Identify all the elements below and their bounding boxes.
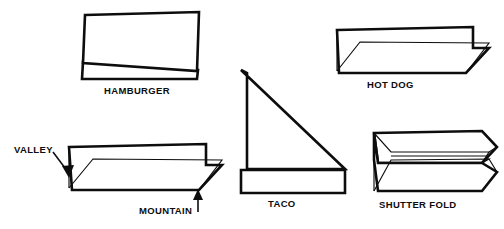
- caption-hamburger: HAMBURGER: [104, 86, 170, 96]
- taco-base-flap: [241, 170, 345, 193]
- annotation-valley: VALLEY: [14, 145, 53, 155]
- valley-mountain-back-panel: [69, 144, 222, 190]
- annotation-mountain: MOUNTAIN: [139, 206, 192, 216]
- valley-mountain-fold-icon: [69, 144, 222, 190]
- taco-fold-icon: [241, 70, 345, 193]
- shutter-upper-panel: [374, 131, 497, 163]
- hot-dog-fold-icon: [337, 27, 489, 73]
- taco-triangle-panel: [241, 70, 345, 169]
- mountain-callout-arrow: [193, 189, 203, 212]
- paper-fold-diagram: HAMBURGER HOT DOG TACO SHUTTER FOLD VALL…: [0, 0, 504, 229]
- hot-dog-back-panel: [337, 27, 489, 73]
- caption-hot-dog: HOT DOG: [367, 80, 414, 90]
- hamburger-front-panel: [83, 12, 199, 71]
- shutter-fold-icon: [374, 131, 497, 191]
- fold-illustrations-svg: [0, 0, 504, 229]
- caption-taco: TACO: [268, 199, 296, 209]
- caption-shutter-fold: SHUTTER FOLD: [379, 200, 457, 210]
- hamburger-fold-icon: [82, 12, 199, 79]
